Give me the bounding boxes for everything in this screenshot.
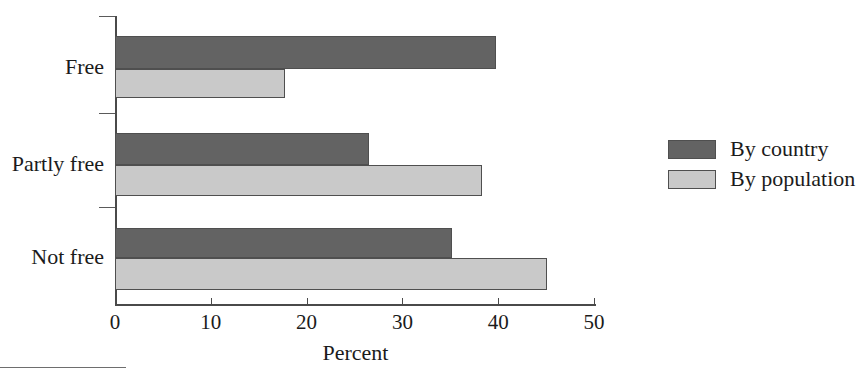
legend-swatch-icon	[668, 140, 716, 159]
bar-not-free-by-population	[115, 258, 547, 290]
category-label-free: Free	[8, 54, 104, 80]
plot-area	[115, 16, 594, 305]
x-axis-tick	[211, 298, 212, 306]
x-axis-tick-label: 20	[277, 309, 337, 335]
legend-item-by-population: By population	[668, 164, 855, 194]
x-axis-tick-label: 30	[372, 309, 432, 335]
x-axis-tick-label: 0	[85, 309, 145, 335]
legend-swatch-icon	[668, 170, 716, 189]
bar-not-free-by-country	[115, 228, 452, 258]
category-label-partly-free: Partly free	[8, 151, 104, 177]
legend-label-by-country: By country	[730, 136, 828, 162]
chart-legend: By country By population	[668, 134, 855, 194]
x-axis-tick	[498, 298, 499, 306]
x-axis-tick	[402, 298, 403, 306]
y-axis-tick	[99, 16, 115, 17]
x-axis-tick	[307, 298, 308, 306]
category-label-not-free: Not free	[8, 244, 104, 270]
x-axis-tick-label: 40	[468, 309, 528, 335]
x-axis-tick	[594, 298, 595, 306]
chart-figure: Free Partly free Not free 01020304050 Pe…	[0, 0, 859, 386]
page-rule-divider	[0, 367, 126, 368]
y-axis-tick	[99, 207, 115, 208]
x-axis-tick-label: 50	[564, 309, 624, 335]
x-axis-tick	[115, 298, 116, 306]
y-axis-tick	[99, 113, 115, 114]
legend-item-by-country: By country	[668, 134, 855, 164]
bar-partly-free-by-population	[115, 165, 482, 196]
x-axis-tick-label: 10	[181, 309, 241, 335]
legend-label-by-population: By population	[730, 166, 855, 192]
bar-free-by-population	[115, 69, 285, 98]
x-axis-title: Percent	[115, 340, 596, 366]
bar-free-by-country	[115, 36, 496, 69]
bar-partly-free-by-country	[115, 133, 369, 165]
